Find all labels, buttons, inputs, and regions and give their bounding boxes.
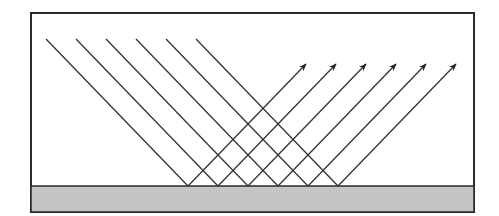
diagram-canvas <box>0 0 499 216</box>
reflecting-surface <box>31 186 474 212</box>
reflection-diagram <box>0 0 499 216</box>
